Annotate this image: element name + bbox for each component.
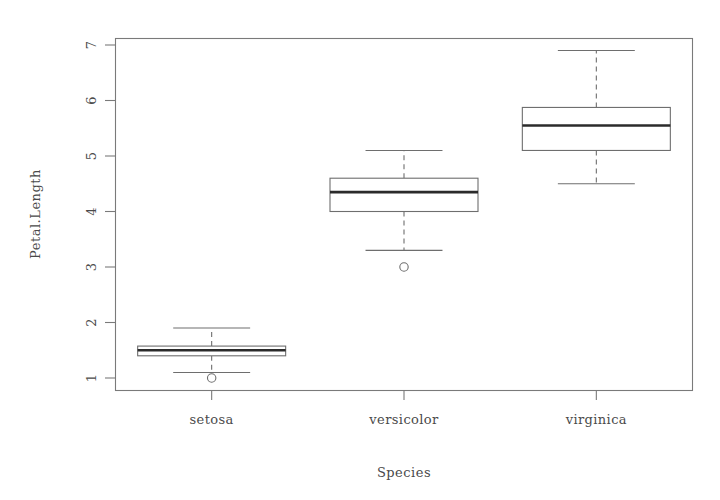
x-tick-label-setosa: setosa [190, 412, 234, 427]
y-tick-label: 7 [84, 41, 99, 49]
box-rect [330, 178, 478, 211]
x-tick-label-versicolor: versicolor [368, 412, 439, 427]
plot-canvas: 1234567 setosaversicolorvirginica Petal.… [0, 0, 720, 500]
y-tick-label: 2 [84, 318, 99, 326]
x-axis-title: Species [377, 465, 431, 480]
x-axis: setosaversicolorvirginica [190, 391, 627, 428]
outlier-point [207, 374, 215, 382]
y-tick-label: 5 [84, 152, 99, 160]
y-axis-title: Petal.Length [28, 169, 43, 259]
boxplot-figure: 1234567 setosaversicolorvirginica Petal.… [0, 0, 720, 500]
y-tick-label: 3 [84, 263, 99, 271]
box-series [138, 51, 671, 383]
y-axis: 1234567 [84, 41, 116, 382]
box-rect [522, 107, 670, 150]
x-tick-label-virginica: virginica [565, 412, 627, 427]
outlier-point [400, 263, 408, 271]
y-tick-label: 1 [84, 374, 99, 382]
box-setosa [138, 328, 286, 382]
box-virginica [522, 51, 670, 184]
y-tick-label: 6 [84, 96, 99, 104]
y-tick-label: 4 [84, 207, 99, 215]
box-versicolor [330, 150, 478, 271]
